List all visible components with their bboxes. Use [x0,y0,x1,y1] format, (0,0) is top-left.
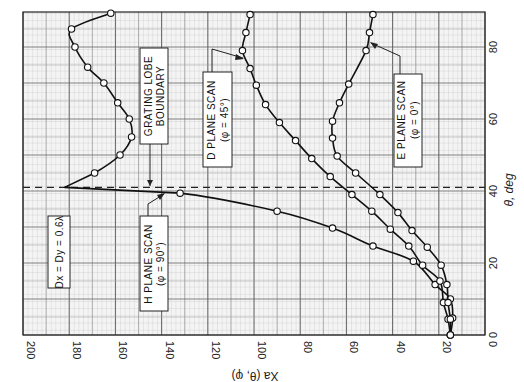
spacing-annotation: Dx = Dy = 0.6λ [48,215,70,288]
y-tick-label: 20 [487,257,499,269]
y-tick-label: 80 [487,41,499,53]
data-point-marker [363,47,369,53]
data-point-marker [177,190,183,196]
data-point-marker [329,118,335,124]
y-tick-label: 40 [487,185,499,197]
data-point-marker [292,137,298,143]
data-point-marker [108,10,114,16]
data-point-marker [91,170,97,176]
data-point-marker [349,191,355,197]
data-point-marker [115,100,121,106]
data-point-marker [387,226,393,232]
data-point-marker [247,11,253,17]
x-tick-label: 200 [25,341,37,359]
svg-text:GRATING LOBE: GRATING LOBE [143,56,154,136]
data-point-marker [309,155,315,161]
chart: 200180160140120100806040200 020406080 Xa… [0,0,524,382]
data-point-marker [262,101,268,107]
data-point-marker [346,81,352,87]
x-tick-label: 160 [117,341,129,359]
data-point-marker [366,29,372,35]
y-axis-title: θ, deg [502,173,516,207]
data-point-marker [239,47,245,53]
data-point-marker [327,173,333,179]
data-point-marker [445,299,451,305]
x-tick-label: 20 [441,341,453,353]
data-point-marker [419,262,425,268]
data-point-marker [253,82,259,88]
data-point-marker [409,227,415,233]
x-tick-label: 180 [71,341,83,359]
svg-text:D PLANE SCAN: D PLANE SCAN [206,80,217,159]
svg-text:H PLANE SCAN: H PLANE SCAN [143,224,154,303]
data-point-marker [329,225,335,231]
data-point-marker [243,29,249,35]
svg-text:BOUNDARY: BOUNDARY [155,66,166,127]
x-tick-label: 40 [395,341,407,353]
data-point-marker [101,80,107,86]
y-tick-label: 60 [487,113,499,125]
x-tick-label: 100 [256,341,268,359]
x-tick-label: 120 [210,341,222,359]
data-point-marker [377,191,383,197]
data-point-marker [84,64,90,70]
data-point-marker [329,135,335,141]
y-axis-ticks: 020406080 [487,41,499,338]
data-point-marker [437,278,443,284]
svg-text:(φ = 45°): (φ = 45°) [219,98,230,142]
data-point-marker [369,208,375,214]
data-point-marker [438,262,444,268]
data-point-marker [352,170,358,176]
x-tick-label: 60 [348,341,360,353]
svg-text:(φ = 0°): (φ = 0°) [409,101,420,139]
data-point-marker [370,11,376,17]
data-point-marker [410,258,416,264]
data-point-marker [406,243,412,249]
data-point-marker [444,281,450,287]
data-point-marker [336,100,342,106]
x-tick-label: 80 [302,341,314,353]
svg-text:Dx = Dy = 0.6λ: Dx = Dy = 0.6λ [54,215,65,288]
data-point-marker [274,208,280,214]
data-point-marker [117,152,123,158]
data-point-marker [334,153,340,159]
data-point-marker [447,316,453,322]
data-point-marker [447,332,453,338]
svg-text:(φ = 90°): (φ = 90°) [155,242,166,286]
data-point-marker [247,65,253,71]
svg-text:E PLANE SCAN: E PLANE SCAN [396,81,407,160]
data-point-marker [126,116,132,122]
data-point-marker [68,26,74,32]
data-point-marker [128,134,134,140]
data-point-marker [72,44,78,50]
data-point-marker [424,244,430,250]
x-tick-label: 0 [487,341,499,347]
x-axis-title: Xa (θ, φ) [231,369,278,382]
data-point-marker [395,209,401,215]
y-tick-label: 0 [487,332,499,338]
data-point-marker [276,119,282,125]
data-point-marker [370,243,376,249]
x-axis-ticks: 200180160140120100806040200 [25,341,499,359]
x-tick-label: 140 [164,341,176,359]
